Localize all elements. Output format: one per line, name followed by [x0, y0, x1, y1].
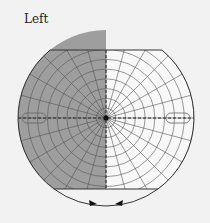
visual-field-chart [0, 0, 210, 223]
fixation-point [104, 116, 109, 121]
